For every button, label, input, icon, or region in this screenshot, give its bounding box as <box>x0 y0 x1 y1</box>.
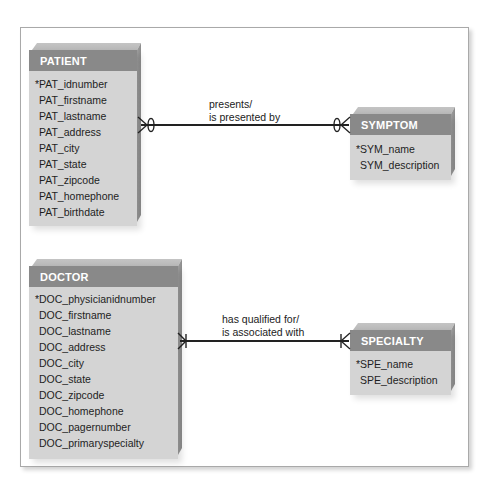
entity-bevel <box>451 323 455 391</box>
entity-bevel <box>353 323 455 330</box>
attribute: DOC_state <box>29 371 178 387</box>
attribute: DOC_address <box>29 339 178 355</box>
entity-header: SPECIALTY <box>350 330 451 351</box>
attribute: DOC_firstname <box>29 307 178 323</box>
one-or-many-crowsfoot-icon <box>334 331 350 351</box>
attribute-primary-key: *DOC_physicianidnumber <box>29 291 178 307</box>
attribute-primary-key: *SYM_name <box>350 141 451 157</box>
attribute: PAT_lastname <box>29 108 137 124</box>
attribute-label: SYM_name <box>360 143 415 155</box>
entity-header: PATIENT <box>29 50 137 71</box>
zero-or-many-crowsfoot-icon <box>331 115 351 135</box>
relationship-label-patient-symptom: presents/ is presented by <box>209 98 280 124</box>
entity-bevel <box>32 259 182 266</box>
entity-bevel <box>178 259 182 455</box>
entity-header: DOCTOR <box>29 266 178 287</box>
attribute: SPE_description <box>350 372 451 388</box>
entity-doctor: DOCTOR *DOC_physicianidnumber DOC_firstn… <box>29 266 178 459</box>
relationship-label-line: has qualified for/ <box>222 313 304 326</box>
relationship-label-line: presents/ <box>209 98 280 111</box>
attribute: DOC_zipcode <box>29 387 178 403</box>
entity-bevel <box>32 43 141 50</box>
zero-or-many-crowsfoot-icon <box>138 115 158 135</box>
attribute: PAT_zipcode <box>29 172 137 188</box>
relationship-line-patient-symptom <box>141 124 349 126</box>
attribute: DOC_homephone <box>29 403 178 419</box>
attribute: SYM_description <box>350 157 451 173</box>
entity-specialty: SPECIALTY *SPE_name SPE_description <box>350 330 451 395</box>
attribute: PAT_state <box>29 156 137 172</box>
attribute-primary-key: *PAT_idnumber <box>29 76 137 92</box>
relationship-label-doctor-specialty: has qualified for/ is associated with <box>222 313 304 339</box>
relationship-label-line: is presented by <box>209 111 280 124</box>
attribute: DOC_city <box>29 355 178 371</box>
entity-header: SYMPTOM <box>350 114 451 135</box>
attribute-label: PAT_idnumber <box>39 78 107 90</box>
attribute: PAT_homephone <box>29 188 137 204</box>
attribute-primary-key: *SPE_name <box>350 356 451 372</box>
entity-symptom: SYMPTOM *SYM_name SYM_description <box>350 114 451 180</box>
attribute: PAT_address <box>29 124 137 140</box>
relationship-label-line: is associated with <box>222 326 304 339</box>
attribute: DOC_primaryspecialty <box>29 435 178 451</box>
attribute-label: SPE_name <box>360 358 413 370</box>
attribute: DOC_pagernumber <box>29 419 178 435</box>
attribute-label: DOC_physicianidnumber <box>39 293 156 305</box>
entity-bevel <box>353 107 455 114</box>
attribute: DOC_lastname <box>29 323 178 339</box>
attribute: PAT_firstname <box>29 92 137 108</box>
attribute: PAT_city <box>29 140 137 156</box>
entity-patient: PATIENT *PAT_idnumber PAT_firstname PAT_… <box>29 50 137 226</box>
relationship-line-doctor-specialty <box>180 340 349 342</box>
entity-bevel <box>451 107 455 176</box>
attribute: PAT_birthdate <box>29 204 137 220</box>
one-or-many-crowsfoot-icon <box>178 331 194 351</box>
